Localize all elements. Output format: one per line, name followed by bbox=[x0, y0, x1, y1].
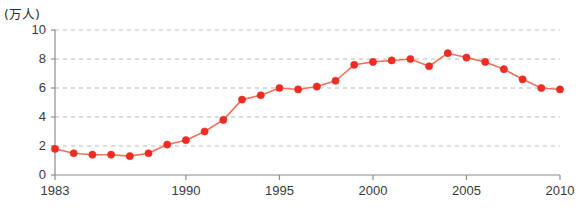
y-axis-label-10: 10 bbox=[22, 22, 46, 37]
x-axis-label-2005: 2005 bbox=[444, 183, 488, 198]
data-point-1995 bbox=[276, 84, 283, 91]
data-point-1983 bbox=[51, 145, 58, 152]
data-point-1997 bbox=[313, 83, 320, 90]
data-point-1985 bbox=[89, 151, 96, 158]
data-point-2006 bbox=[482, 58, 489, 65]
data-point-2005 bbox=[463, 54, 470, 61]
data-point-1984 bbox=[70, 150, 77, 157]
y-axis-label-2: 2 bbox=[22, 138, 46, 153]
chart-container: (万人) 0246810198319901995200020052010 bbox=[0, 0, 584, 219]
data-point-1987 bbox=[126, 153, 133, 160]
data-point-2007 bbox=[500, 66, 507, 73]
x-axis-label-1990: 1990 bbox=[164, 183, 208, 198]
data-point-2004 bbox=[444, 50, 451, 57]
y-axis-label-8: 8 bbox=[22, 51, 46, 66]
data-point-2008 bbox=[519, 76, 526, 83]
x-axis-label-2010: 2010 bbox=[538, 183, 582, 198]
y-axis-label-4: 4 bbox=[22, 109, 46, 124]
x-axis-label-2000: 2000 bbox=[351, 183, 395, 198]
data-point-2002 bbox=[407, 55, 414, 62]
data-point-2003 bbox=[425, 63, 432, 70]
y-axis-label-0: 0 bbox=[22, 167, 46, 182]
data-point-1998 bbox=[332, 77, 339, 84]
data-point-1992 bbox=[220, 116, 227, 123]
data-point-1996 bbox=[295, 86, 302, 93]
series-line-0 bbox=[55, 53, 560, 156]
data-point-2000 bbox=[369, 58, 376, 65]
data-point-1986 bbox=[108, 151, 115, 158]
data-point-1999 bbox=[351, 61, 358, 68]
data-point-1994 bbox=[257, 92, 264, 99]
x-axis-label-1983: 1983 bbox=[33, 183, 77, 198]
data-point-1991 bbox=[201, 128, 208, 135]
x-axis-label-1995: 1995 bbox=[257, 183, 301, 198]
data-point-2001 bbox=[388, 57, 395, 64]
y-axis-label-6: 6 bbox=[22, 80, 46, 95]
data-point-2009 bbox=[538, 84, 545, 91]
data-point-1988 bbox=[145, 150, 152, 157]
data-point-2010 bbox=[556, 86, 563, 93]
data-point-1993 bbox=[238, 96, 245, 103]
data-point-1989 bbox=[164, 141, 171, 148]
data-point-1990 bbox=[182, 137, 189, 144]
